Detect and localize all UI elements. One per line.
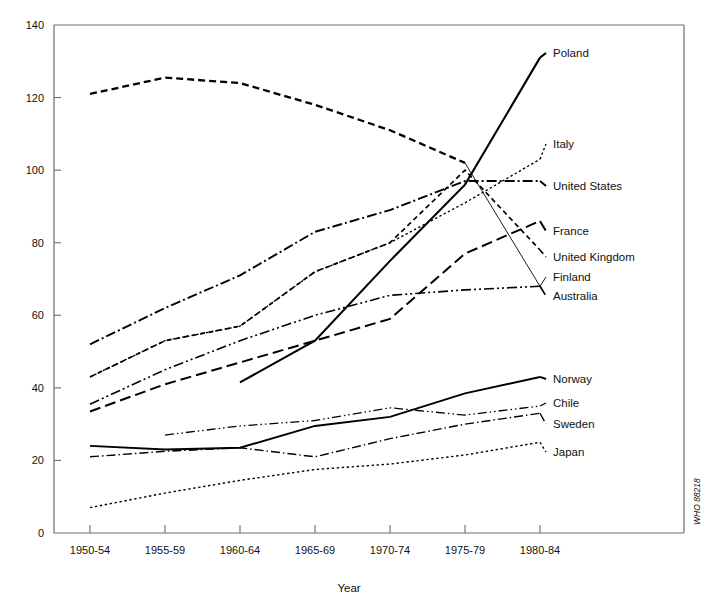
series-leader-line <box>540 53 546 58</box>
series-label-united-states: United States <box>553 180 622 192</box>
series-leader-line <box>540 144 546 159</box>
series-leader-line <box>540 250 546 257</box>
series-label-finland: Finland <box>553 271 591 283</box>
x-tick-label: 1980-84 <box>520 544 560 556</box>
series-label-united-kingdom: United Kingdom <box>553 251 635 263</box>
series-labels: PolandItalyUnited StatesFranceUnited Kin… <box>553 47 635 458</box>
x-tick-label: 1970-74 <box>370 544 410 556</box>
x-axis-title: Year <box>337 582 360 594</box>
series-line <box>90 221 540 412</box>
series-lines <box>90 58 540 508</box>
series-label-australia: Australia <box>553 290 598 302</box>
series-leader-line <box>540 413 546 424</box>
y-tick-label: 80 <box>32 237 44 249</box>
y-tick-label: 100 <box>26 164 44 176</box>
y-tick-label: 140 <box>26 19 44 31</box>
who-credit-text: WHO 88218 <box>692 478 702 525</box>
series-label-poland: Poland <box>553 47 589 59</box>
series-leader-line <box>540 286 546 296</box>
series-line <box>90 170 540 377</box>
line-chart-canvas: PolandItalyUnited StatesFranceUnited Kin… <box>0 0 717 616</box>
axis-titles: Year <box>337 582 360 594</box>
x-tick-label: 1950-54 <box>70 544 110 556</box>
y-tick-label: 120 <box>26 92 44 104</box>
x-tick-label: 1965-69 <box>295 544 335 556</box>
series-label-norway: Norway <box>553 373 592 385</box>
series-leader-line <box>540 377 546 379</box>
y-tick-label: 0 <box>38 527 44 539</box>
x-tick-label: 1975-79 <box>445 544 485 556</box>
series-leader-lines <box>540 53 546 452</box>
series-label-japan: Japan <box>553 446 584 458</box>
series-leader-line <box>540 181 546 186</box>
series-line <box>90 413 540 457</box>
series-line <box>90 181 540 344</box>
chart-figure: PolandItalyUnited StatesFranceUnited Kin… <box>0 0 717 616</box>
series-line <box>240 58 540 383</box>
series-leader-line <box>540 442 546 452</box>
credit-note: WHO 88218 <box>692 478 702 525</box>
series-line <box>90 159 540 377</box>
y-tick-label: 40 <box>32 382 44 394</box>
y-tick-label: 20 <box>32 454 44 466</box>
y-tick-label: 60 <box>32 309 44 321</box>
series-label-france: France <box>553 225 589 237</box>
series-label-sweden: Sweden <box>553 418 595 430</box>
series-leader-line <box>540 277 546 286</box>
series-label-chile: Chile <box>553 397 579 409</box>
series-leader-line <box>540 403 546 406</box>
x-tick-label: 1955-59 <box>145 544 185 556</box>
series-line <box>90 78 465 163</box>
x-tick-label: 1960-64 <box>220 544 260 556</box>
series-label-italy: Italy <box>553 138 574 150</box>
series-leader-line <box>540 221 546 231</box>
